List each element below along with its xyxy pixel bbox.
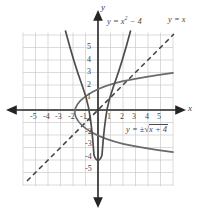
x-tick-neg5: -5 bbox=[30, 113, 37, 121]
y-axis-arrow-up bbox=[94, 12, 101, 20]
x-tick-4: 4 bbox=[145, 113, 149, 121]
x-tick-neg1: -1 bbox=[80, 113, 87, 121]
x-axis-arrow-right bbox=[176, 106, 184, 113]
y-tick-3: 3 bbox=[87, 68, 91, 76]
parabola-equation-label: y = x2 − 4 bbox=[107, 15, 142, 25]
y-tick-2: 2 bbox=[87, 81, 91, 89]
sideways-parabola-equation-label: y = ±√x + 4 bbox=[126, 124, 168, 134]
x-tick-5: 5 bbox=[157, 113, 161, 121]
y-axis-arrow-down bbox=[94, 198, 101, 206]
y-tick-1: 1 bbox=[87, 93, 91, 101]
radicand: x + 4 bbox=[149, 124, 168, 134]
y-axis-label: y bbox=[101, 3, 105, 12]
x-tick-neg3: -3 bbox=[55, 113, 62, 121]
y-tick-4: 4 bbox=[87, 56, 91, 64]
x-axis-arrow-left bbox=[8, 106, 16, 113]
plot-canvas bbox=[0, 0, 207, 209]
sideways-equation-lhs: y = ± bbox=[126, 124, 144, 134]
y-tick-neg5: -5 bbox=[85, 165, 92, 173]
y-tick-neg4: -4 bbox=[85, 153, 92, 161]
x-tick-2: 2 bbox=[120, 113, 124, 121]
parabola-equation-lhs: y = x bbox=[107, 16, 125, 26]
axis-lines bbox=[8, 12, 184, 206]
y-tick-5: 5 bbox=[87, 43, 91, 51]
parabola-equation-rhs: − 4 bbox=[128, 16, 142, 26]
x-tick-1: 1 bbox=[107, 113, 111, 121]
graph-figure: y x 5 4 3 2 1 -1 -2 -3 -4 -5 -5 -4 -3 -2… bbox=[0, 0, 207, 209]
y-tick-neg3: -3 bbox=[85, 140, 92, 148]
x-tick-neg4: -4 bbox=[43, 113, 50, 121]
x-tick-neg2: -2 bbox=[68, 113, 75, 121]
y-tick-neg2: -2 bbox=[85, 128, 92, 136]
identity-line-equation-label: y = x bbox=[168, 15, 186, 24]
x-axis-label: x bbox=[188, 104, 192, 113]
x-tick-3: 3 bbox=[132, 113, 136, 121]
